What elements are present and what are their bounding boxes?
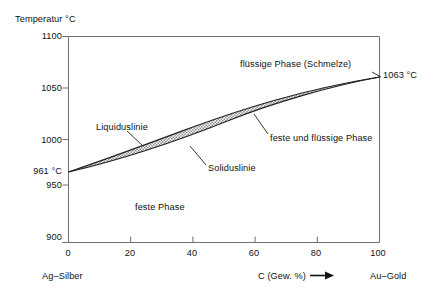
- x-tick-label-0: 0: [53, 248, 83, 258]
- annotation-solidus-line: Soliduslinie: [208, 163, 256, 173]
- leader-line-liquidus: [127, 131, 143, 146]
- x-tick-label-100: 100: [363, 248, 393, 258]
- leader-line-solidus: [190, 146, 206, 165]
- y-tick-label-950: 950: [14, 180, 62, 190]
- x-tick-label-20: 20: [115, 248, 145, 258]
- y-axis-title: Temperatur °C: [15, 14, 76, 24]
- annotation-two-phase-region: feste und flüssige Phase: [270, 133, 373, 143]
- x-tick-label-80: 80: [301, 248, 331, 258]
- arrow-right-icon: [310, 272, 334, 280]
- x-axis-caption-left: Ag–Silber: [42, 271, 83, 281]
- annotation-gold-melting-point: 1063 °C: [383, 70, 417, 80]
- x-tick-label-60: 60: [239, 248, 269, 258]
- y-tick-label-961: 961 °C: [6, 166, 62, 176]
- y-tick-label-1050: 1050: [14, 83, 62, 93]
- y-tick-label-1100: 1100: [14, 31, 62, 41]
- annotation-solid-phase: feste Phase: [135, 202, 185, 212]
- annotation-liquidus-line: Liquiduslinie: [96, 122, 148, 132]
- x-axis-caption-right: Au–Gold: [370, 271, 406, 281]
- y-tick-label-900: 900: [14, 232, 62, 242]
- y-tick-label-1000: 1000: [14, 135, 62, 145]
- x-tick-label-40: 40: [177, 248, 207, 258]
- annotation-liquid-phase: flüssige Phase (Schmelze): [240, 59, 351, 69]
- y-tick-marks: [63, 37, 69, 243]
- leader-line-two-phase: [254, 114, 268, 134]
- x-tick-marks: [69, 237, 380, 243]
- x-axis-caption-center: C (Gew. %): [258, 271, 306, 281]
